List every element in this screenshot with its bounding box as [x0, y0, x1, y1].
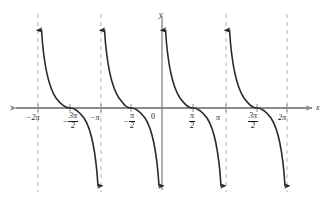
- tick-label-neg-2pi: −2π: [26, 114, 39, 122]
- fraction: π 2: [189, 112, 195, 131]
- fraction: 3π 2: [68, 112, 78, 131]
- fraction-numerator: π: [129, 112, 135, 120]
- fraction-numerator: 3π: [248, 112, 258, 120]
- tick-label-zero: 0: [151, 113, 155, 121]
- fraction-denominator: 2: [189, 122, 195, 130]
- x-axis-label: x: [316, 103, 320, 112]
- tick-label-neg-3pi-over-2: − 3π 2: [63, 112, 78, 131]
- cotangent-graph-figure: y x −2π − 3π 2 −π − π 2 0 π 2 π 3π 2: [0, 0, 328, 206]
- fraction: π 2: [129, 112, 135, 131]
- tick-label-neg-pi: −π: [90, 114, 99, 122]
- tick-label-pi-over-2: π 2: [189, 112, 195, 131]
- tick-label-pi: π: [216, 114, 220, 122]
- fraction-denominator: 2: [68, 122, 78, 130]
- y-axis-label: y: [159, 10, 163, 19]
- fraction: 3π 2: [248, 112, 258, 131]
- fraction-denominator: 2: [248, 122, 258, 130]
- fraction-numerator: π: [189, 112, 195, 120]
- graph-canvas: [0, 0, 328, 206]
- minus-sign: −: [124, 117, 129, 126]
- fraction-numerator: 3π: [68, 112, 78, 120]
- tick-label-neg-pi-over-2: − π 2: [124, 112, 135, 131]
- minus-sign: −: [63, 117, 68, 126]
- tick-label-2pi: 2π: [278, 114, 286, 122]
- fraction-denominator: 2: [129, 122, 135, 130]
- tick-label-3pi-over-2: 3π 2: [248, 112, 258, 131]
